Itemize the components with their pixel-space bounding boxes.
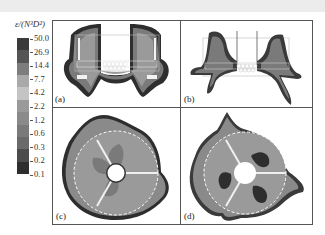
colorbar-segment	[17, 75, 29, 87]
contour-plot-d	[181, 108, 312, 224]
colorbar-tick-label: 26.9	[30, 48, 49, 57]
contour-plot-b	[181, 21, 312, 107]
colorbar-tick-label: 2.2	[30, 102, 45, 111]
panel-label-a: (a)	[55, 94, 65, 104]
colorbar-segment	[17, 100, 29, 112]
panel-c: (c)	[53, 108, 180, 224]
colorbar-tick-label: 0.3	[30, 143, 45, 152]
colorbar-segment	[17, 38, 29, 50]
top-bar	[0, 0, 325, 12]
colorbar-tick-label: 4.2	[30, 88, 45, 97]
colorbar-segment	[17, 149, 29, 161]
colorbar-segment	[17, 125, 29, 137]
colorbar-tick-label: 0.1	[30, 170, 45, 179]
colorbar-tick-label: 50.0	[30, 34, 49, 43]
colorbar-segment	[17, 50, 29, 62]
colorbar	[17, 38, 29, 174]
colorbar-tick-label: 0.2	[30, 156, 45, 165]
contour-plot-c	[53, 108, 180, 224]
colorbar-tick-label: 1.2	[30, 116, 45, 125]
panel-label-d: (d)	[184, 211, 195, 221]
colorbar-tick-label: 7.7	[30, 75, 45, 84]
colorbar-tick-label: 14.4	[30, 61, 49, 70]
panel-b: (b)	[181, 21, 312, 107]
panel-a: (a)	[53, 21, 180, 107]
colorbar-segment	[17, 137, 29, 149]
contour-plot-a	[53, 21, 180, 107]
colorbar-segment	[17, 87, 29, 99]
colorbar-title: ε/(N³D²)	[15, 19, 45, 29]
colorbar-segment	[17, 112, 29, 124]
colorbar-segment	[17, 162, 29, 174]
colorbar-tick-label: 0.6	[30, 129, 45, 138]
panel-label-b: (b)	[184, 94, 195, 104]
colorbar-segment	[17, 63, 29, 75]
panel-label-c: (c)	[56, 211, 66, 221]
panel-d: (d)	[181, 108, 312, 224]
